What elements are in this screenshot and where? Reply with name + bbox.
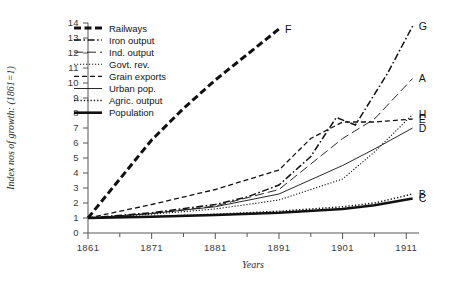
legend-item-label: Iron output [109,35,155,46]
y-tick-label: 9 [73,92,79,103]
y-tick-label: 12 [68,47,79,58]
y-tick-label: 2 [73,197,79,208]
y-tick-label: 6 [73,137,79,148]
x-axis-title: Years [242,259,264,270]
series-end-label: F [285,23,291,35]
legend-item-label: Ind. output [109,47,154,58]
x-tick-label: 1911 [395,242,417,253]
series-end-label: C [419,192,427,204]
chart-svg: 01234567891011121314 1861187118811891190… [0,0,460,287]
legend-item-label: Agric. output [109,95,163,106]
legend-item-label: Population [109,107,154,118]
x-tick-label: 1901 [331,242,354,253]
legend-item-label: Govt. rev. [109,59,149,70]
y-tick-label: 3 [73,182,79,193]
x-tick-label: 1861 [77,242,100,253]
series-end-label: G [419,20,427,32]
y-tick-label: 4 [73,167,79,178]
growth-index-line-chart: 01234567891011121314 1861187118811891190… [0,0,460,287]
y-tick-label: 7 [73,122,79,133]
y-tick-label: 5 [73,152,79,163]
series-end-label: D [419,122,427,134]
x-axis-ticks: 186118711881189119011911 [77,233,418,253]
legend-item-label: Urban pop. [109,83,156,94]
legend-item-label: Grain exports [109,71,166,82]
series-line [88,115,413,219]
y-tick-label: 13 [68,32,79,43]
series-end-labels: FGAHEDBC [285,20,427,205]
legend-item-label: Railways [109,23,147,34]
y-axis-title: Index nos of growth: (1861=1) [5,66,17,191]
x-tick-label: 1891 [268,242,291,253]
y-axis-ticks: 01234567891011121314 [68,17,88,238]
x-tick-label: 1881 [204,242,227,253]
y-tick-label: 0 [73,227,79,238]
series-line [88,119,413,218]
y-tick-label: 1 [73,212,79,223]
series-end-label: A [419,72,426,84]
x-tick-label: 1871 [140,242,163,253]
y-tick-label: 10 [68,77,79,88]
